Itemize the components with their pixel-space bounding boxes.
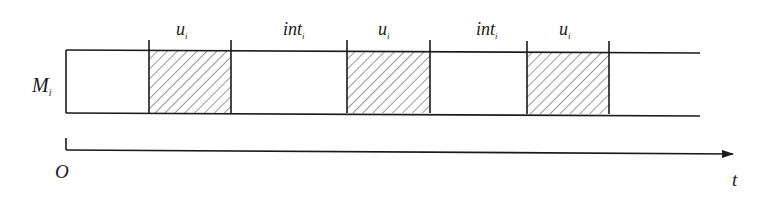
machine-label: Mi — [31, 74, 52, 98]
segment-label-u-1: ui — [176, 19, 188, 41]
time-axis — [66, 138, 733, 154]
segment-label-int-2: inti — [476, 19, 498, 41]
segment-label-u-2: ui — [378, 19, 390, 41]
segment-label-u-3: ui — [559, 19, 571, 41]
segment-label-int-1: inti — [283, 19, 305, 41]
axis-label-t: t — [732, 169, 738, 190]
origin-label: O — [55, 161, 69, 182]
gantt-diagram: Mi O t ui inti ui inti ui — [0, 0, 771, 199]
